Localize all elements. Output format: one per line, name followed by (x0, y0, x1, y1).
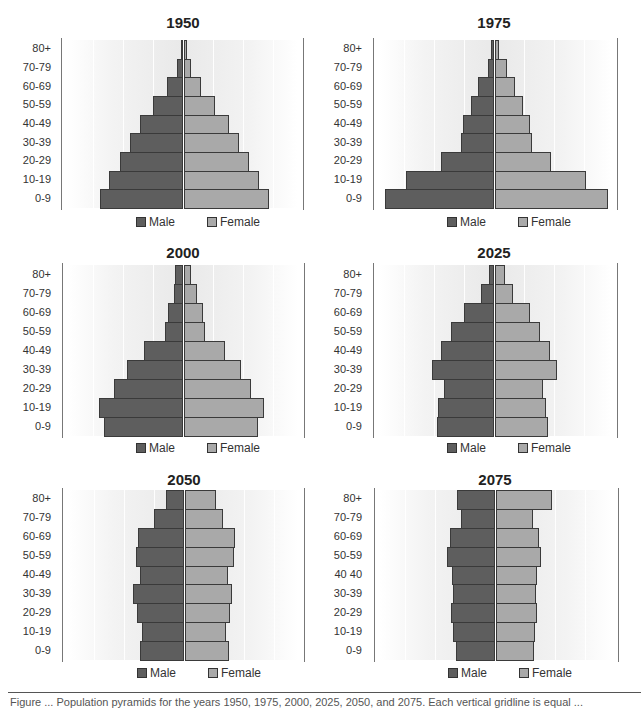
chart-legend: MaleFemale (136, 441, 278, 455)
male-bar (444, 379, 494, 399)
male-bar (437, 417, 494, 437)
chart-legend: MaleFemale (447, 215, 589, 229)
legend-label: Female (220, 441, 260, 455)
age-group-label: 0-9 (11, 420, 51, 432)
chart-title: 1950 (166, 14, 199, 31)
figure-caption: Figure ... Population pyramids for the y… (10, 696, 583, 708)
legend-item-male: Male (136, 215, 175, 229)
female-swatch-icon (518, 443, 528, 453)
legend-label: Female (220, 215, 260, 229)
male-bar (441, 341, 494, 361)
male-bar (463, 115, 495, 135)
left-axis-line (62, 488, 63, 662)
female-bar (184, 360, 241, 380)
female-bar (184, 96, 215, 116)
right-axis-line (303, 38, 304, 210)
legend-item-male: Male (448, 666, 487, 680)
legend-item-male: Male (137, 666, 176, 680)
male-swatch-icon (447, 217, 457, 227)
female-bar (184, 379, 251, 399)
right-axis-line (304, 488, 305, 662)
chart-legend: MaleFemale (448, 666, 590, 680)
center-divider (494, 265, 495, 436)
age-group-label: 40-49 (322, 117, 362, 129)
male-bar (100, 189, 184, 209)
female-bar (495, 171, 586, 191)
female-swatch-icon (207, 443, 217, 453)
age-group-label: 30-39 (11, 136, 51, 148)
age-group-label: 0-9 (11, 644, 51, 656)
female-bar (496, 490, 552, 510)
legend-label: Male (149, 215, 175, 229)
legend-item-female: Female (207, 441, 260, 455)
age-group-label: 20-29 (322, 606, 362, 618)
legend-label: Female (532, 666, 572, 680)
female-bar (185, 528, 235, 548)
caption-divider (8, 692, 641, 693)
female-bar (496, 622, 535, 642)
gridline (404, 265, 405, 436)
age-group-label: 70-79 (11, 511, 51, 523)
chart-title: 1975 (477, 14, 510, 31)
male-bar (175, 265, 183, 285)
age-group-label: 70-79 (322, 61, 362, 73)
female-bar (184, 322, 205, 342)
female-bar (184, 133, 239, 153)
left-axis-line (61, 38, 62, 210)
legend-label: Female (531, 215, 571, 229)
male-bar (153, 96, 184, 116)
female-bar (496, 528, 539, 548)
male-bar (478, 77, 495, 97)
female-bar (184, 152, 249, 172)
male-bar (133, 584, 184, 604)
gridline (124, 490, 125, 660)
male-bar (456, 641, 495, 661)
gridline (554, 265, 555, 436)
legend-item-female: Female (207, 215, 260, 229)
female-bar (185, 509, 223, 529)
age-group-label: 10-19 (322, 401, 362, 413)
age-group-label: 10-19 (11, 401, 51, 413)
male-bar (167, 77, 183, 97)
center-divider (494, 40, 495, 208)
female-bar (185, 603, 230, 623)
female-bar (495, 59, 507, 79)
chart-legend: MaleFemale (137, 666, 279, 680)
female-bar (495, 379, 543, 399)
chart-legend: MaleFemale (447, 441, 589, 455)
gridline (555, 490, 556, 660)
female-bar (185, 490, 216, 510)
legend-item-male: Male (136, 441, 175, 455)
left-axis-line (62, 263, 63, 438)
age-group-label: 60-69 (322, 530, 362, 542)
female-bar (495, 189, 608, 209)
age-group-label: 50-59 (322, 325, 362, 337)
female-bar (495, 96, 523, 116)
male-bar (138, 528, 184, 548)
female-bar (185, 566, 228, 586)
female-bar (495, 133, 532, 153)
male-bar (144, 341, 183, 361)
male-bar (154, 509, 184, 529)
female-bar (184, 59, 191, 79)
age-group-label: 30-39 (322, 136, 362, 148)
male-bar (174, 284, 183, 304)
age-group-label: 50-59 (11, 98, 51, 110)
female-bar (495, 40, 499, 60)
male-bar (142, 622, 184, 642)
age-group-label: 0-9 (322, 644, 362, 656)
chart-title: 2000 (166, 244, 199, 261)
right-axis-line (617, 38, 618, 210)
female-bar (184, 40, 187, 60)
age-group-label: 70-79 (11, 287, 51, 299)
legend-label: Female (221, 666, 261, 680)
right-axis-line (618, 488, 619, 662)
male-bar (168, 303, 183, 323)
chart-title: 2025 (477, 244, 510, 261)
female-bar (185, 622, 226, 642)
male-bar (432, 360, 494, 380)
age-group-label: 80+ (11, 42, 51, 54)
male-bar (166, 490, 184, 510)
gridline (273, 265, 274, 436)
age-group-label: 20-29 (11, 154, 51, 166)
